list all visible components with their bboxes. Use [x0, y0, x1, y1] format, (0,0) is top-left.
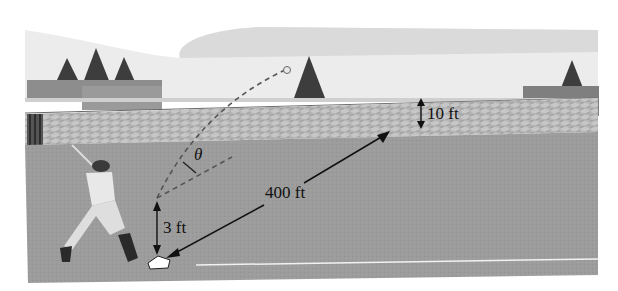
distance-label: 400 ft: [265, 184, 305, 201]
scene-svg: [0, 0, 618, 291]
baseball-diagram: θ 400 ft 10 ft 3 ft: [0, 0, 618, 291]
fence-height-label: 10 ft: [427, 105, 459, 122]
angle-label: θ: [194, 146, 202, 163]
baseball: [284, 67, 291, 74]
contact-height-label: 3 ft: [163, 219, 186, 236]
